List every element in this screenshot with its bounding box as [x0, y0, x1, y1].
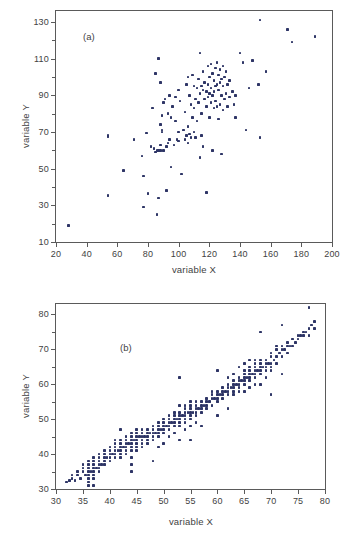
y-tick-label: 50 [22, 164, 49, 174]
data-point [200, 85, 203, 88]
data-point [275, 345, 278, 348]
data-point [222, 109, 225, 112]
data-point [157, 425, 160, 428]
data-point [82, 467, 85, 470]
data-point [87, 481, 90, 484]
data-point [265, 359, 268, 362]
data-point [243, 390, 246, 393]
data-point [92, 463, 95, 466]
data-point [220, 94, 223, 97]
data-point [219, 68, 222, 71]
data-point [308, 327, 311, 330]
data-point [286, 341, 289, 344]
data-point [130, 432, 133, 435]
data-point [188, 133, 191, 136]
data-point [270, 366, 273, 369]
data-point [213, 79, 216, 82]
x-tick-label: 75 [293, 496, 303, 506]
data-point [178, 418, 181, 421]
data-point [270, 352, 273, 355]
data-point [157, 197, 160, 200]
data-point [74, 479, 77, 482]
y-tick-label: 70 [22, 127, 49, 137]
x-tick-label: 40 [105, 496, 115, 506]
x-tick-70 [271, 490, 272, 494]
data-point [130, 435, 133, 438]
y-tick-label: 130 [22, 17, 49, 27]
data-point [195, 421, 198, 424]
x-tick-label: 80 [320, 496, 330, 506]
data-point [184, 418, 187, 421]
y-tick-50 [51, 419, 55, 420]
panel-a-plot-frame [55, 10, 333, 243]
data-point [238, 386, 241, 389]
x-tick-label: 60 [112, 249, 122, 259]
data-point [174, 120, 177, 123]
data-point [193, 131, 196, 134]
y-tick-130 [51, 22, 55, 23]
data-point [156, 213, 159, 216]
x-tick-label: 200 [324, 249, 340, 259]
data-point [162, 442, 165, 445]
data-point [119, 456, 122, 459]
data-point [233, 103, 236, 106]
panel-b-plot-area [56, 304, 325, 489]
data-point [162, 432, 165, 435]
data-point [314, 35, 317, 38]
data-point [270, 393, 273, 396]
data-point [130, 442, 133, 445]
data-point [227, 383, 230, 386]
data-point [92, 474, 95, 477]
data-point [207, 83, 210, 86]
data-point [184, 428, 187, 431]
data-point [167, 142, 170, 145]
data-point [87, 463, 90, 466]
data-point [270, 355, 273, 358]
data-point [98, 453, 101, 456]
y-tick-40 [51, 454, 55, 455]
data-point [238, 366, 241, 369]
y-tick-label: 90 [22, 90, 49, 100]
x-tick-180 [301, 243, 302, 247]
data-point [228, 96, 231, 99]
data-point [211, 404, 214, 407]
data-point [259, 136, 262, 139]
data-point [216, 397, 219, 400]
data-point [191, 116, 194, 119]
y-minor-tick [52, 472, 55, 473]
data-point [259, 383, 262, 386]
x-tick-label: 80 [143, 249, 153, 259]
data-point [135, 446, 138, 449]
data-point [180, 173, 183, 176]
data-point [161, 114, 164, 117]
data-point [125, 435, 128, 438]
data-point [225, 70, 228, 73]
data-point [188, 94, 191, 97]
x-tick-label: 30 [51, 496, 61, 506]
data-point [248, 359, 251, 362]
y-tick-30 [51, 205, 55, 206]
data-point [87, 460, 90, 463]
x-tick-label: 20 [51, 249, 61, 259]
data-point [275, 362, 278, 365]
data-point [265, 366, 268, 369]
x-tick-55 [191, 490, 192, 494]
panel-a: (a) variable X variable Y 20406080100120… [0, 0, 348, 280]
data-point [254, 366, 257, 369]
panel-a-yaxis-title: variable Y [20, 104, 31, 148]
data-point [187, 76, 190, 79]
data-point [216, 390, 219, 393]
data-point [168, 418, 171, 421]
data-point [211, 149, 214, 152]
data-point [227, 376, 230, 379]
data-point [141, 446, 144, 449]
data-point [103, 463, 106, 466]
data-point [125, 449, 128, 452]
data-point [171, 105, 174, 108]
data-point [213, 107, 216, 110]
x-tick-40 [110, 490, 111, 494]
data-point [200, 407, 203, 410]
data-point [291, 338, 294, 341]
data-point [281, 355, 284, 358]
data-point [297, 338, 300, 341]
